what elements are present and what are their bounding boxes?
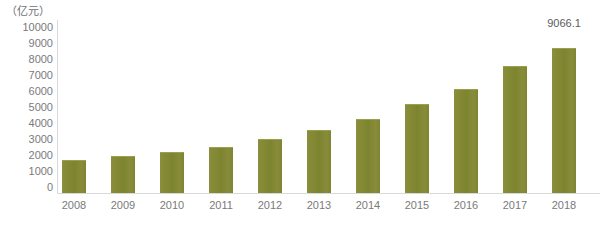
bar[interactable] <box>62 160 86 193</box>
x-axis-tick-label: 2016 <box>446 199 486 211</box>
bar[interactable] <box>258 139 282 193</box>
x-axis-tick-label: 2014 <box>348 199 388 211</box>
bar[interactable] <box>454 89 478 193</box>
bar[interactable] <box>356 119 380 193</box>
x-axis-tick-label: 2010 <box>152 199 192 211</box>
x-axis-tick-label: 2008 <box>54 199 94 211</box>
bar[interactable] <box>307 130 331 193</box>
x-axis-tick-label: 2012 <box>250 199 290 211</box>
plot-area: 2008200920102011201220132014201520162017… <box>0 0 605 225</box>
bar[interactable] <box>552 48 576 193</box>
x-axis-tick-label: 2011 <box>201 199 241 211</box>
bar[interactable] <box>160 152 184 193</box>
bar[interactable] <box>405 104 429 193</box>
bar[interactable] <box>209 147 233 193</box>
bar[interactable] <box>503 66 527 193</box>
bar-value-label: 9066.1 <box>534 17 594 29</box>
x-axis-tick-label: 2013 <box>299 199 339 211</box>
x-axis-tick-label: 2009 <box>103 199 143 211</box>
x-axis-tick-label: 2015 <box>397 199 437 211</box>
bar[interactable] <box>111 156 135 193</box>
bar-chart: （亿元） 10000900080007000600050004000300020… <box>0 0 605 225</box>
x-axis-tick-label: 2018 <box>544 199 584 211</box>
x-axis-tick-label: 2017 <box>495 199 535 211</box>
